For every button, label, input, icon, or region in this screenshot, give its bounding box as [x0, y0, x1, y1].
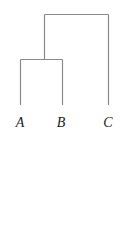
leaf-label-a: A	[16, 116, 25, 130]
leaf-label-b: B	[57, 116, 66, 130]
leaf-label-c: C	[103, 116, 112, 130]
